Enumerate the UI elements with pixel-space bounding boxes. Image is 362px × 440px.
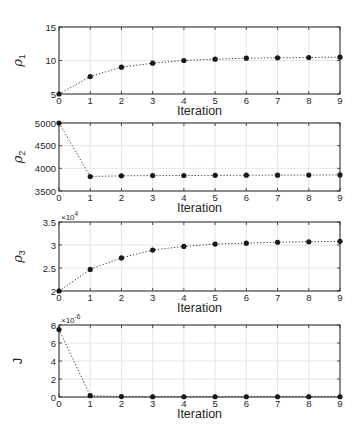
subplot-2: 01234567893500400045005000Iterationρ2 <box>10 118 343 216</box>
x-tick-label: 7 <box>275 192 280 203</box>
x-tick-label: 2 <box>119 292 124 303</box>
data-point <box>119 65 124 70</box>
x-tick-label: 8 <box>306 192 311 203</box>
data-point <box>213 241 218 246</box>
plot-area <box>59 222 340 291</box>
data-point <box>337 239 342 244</box>
x-tick-label: 9 <box>337 95 342 106</box>
data-point <box>244 56 249 61</box>
data-point <box>56 120 61 125</box>
data-point <box>337 55 342 60</box>
y-tick-label: 3500 <box>35 186 56 197</box>
y-tick-label: 8 <box>51 320 56 331</box>
y-axis-label: ρ2 <box>10 151 27 165</box>
y-tick-label: 2 <box>51 286 56 297</box>
y-tick-label: 4 <box>51 356 56 367</box>
x-tick-label: 9 <box>337 192 342 203</box>
x-tick-label: 1 <box>88 95 93 106</box>
x-tick-label: 2 <box>119 192 124 203</box>
x-tick-label: 0 <box>56 192 61 203</box>
x-tick-label: 1 <box>88 292 93 303</box>
subplot-4: 012345678902468×10-6IterationJ <box>10 313 343 421</box>
x-tick-label: 3 <box>150 192 155 203</box>
y-tick-label: 0 <box>51 392 56 403</box>
y-tick-label: 6 <box>51 338 56 349</box>
data-point <box>275 240 280 245</box>
y-axis-label: ρ3 <box>10 250 27 264</box>
data-point <box>244 241 249 246</box>
x-tick-label: 1 <box>88 398 93 409</box>
x-tick-label: 7 <box>275 292 280 303</box>
subplot-1: 012345678951015Iterationρ1 <box>10 22 343 119</box>
x-tick-label: 3 <box>150 95 155 106</box>
x-tick-label: 0 <box>56 398 61 409</box>
data-point <box>181 244 186 249</box>
y-axis-label: ρ1 <box>10 54 27 68</box>
data-point <box>88 74 93 79</box>
x-axis-label: Iteration <box>177 407 222 421</box>
x-tick-label: 2 <box>119 398 124 409</box>
data-point <box>213 57 218 62</box>
x-tick-label: 8 <box>306 292 311 303</box>
data-point <box>306 172 311 177</box>
y-tick-label: 4500 <box>35 140 56 151</box>
data-point <box>306 239 311 244</box>
x-axis-label: Iteration <box>177 301 222 315</box>
data-point <box>150 247 155 252</box>
x-tick-label: 6 <box>244 95 249 106</box>
y-tick-label: 2.5 <box>43 263 56 274</box>
y-tick-label: 4000 <box>35 163 56 174</box>
exponent-label: ×10-6 <box>61 313 81 325</box>
data-point <box>56 327 61 332</box>
figure: 012345678951015Iterationρ101234567893500… <box>0 0 362 440</box>
data-point <box>181 173 186 178</box>
y-tick-label: 5 <box>51 89 56 100</box>
data-point <box>119 255 124 260</box>
x-tick-label: 6 <box>244 192 249 203</box>
x-axis-label: Iteration <box>177 201 222 215</box>
exponent-label: ×104 <box>61 210 79 222</box>
y-tick-label: 3 <box>51 240 56 251</box>
x-tick-label: 8 <box>306 95 311 106</box>
x-tick-label: 1 <box>88 192 93 203</box>
plot-area <box>59 123 340 191</box>
x-tick-label: 9 <box>337 292 342 303</box>
x-tick-label: 6 <box>244 292 249 303</box>
data-point <box>150 61 155 66</box>
data-point <box>275 55 280 60</box>
data-point <box>275 173 280 178</box>
x-tick-label: 0 <box>56 292 61 303</box>
y-tick-label: 3.5 <box>43 217 56 228</box>
x-tick-label: 2 <box>119 95 124 106</box>
y-tick-label: 2 <box>51 374 56 385</box>
data-point <box>150 173 155 178</box>
data-point <box>119 173 124 178</box>
y-tick-label: 10 <box>45 55 56 66</box>
data-point <box>337 172 342 177</box>
x-tick-label: 8 <box>306 398 311 409</box>
x-tick-label: 7 <box>275 398 280 409</box>
x-tick-label: 7 <box>275 95 280 106</box>
subplot-3: 012345678922.533.5×104Iterationρ3 <box>10 210 343 315</box>
data-point <box>306 55 311 60</box>
x-tick-label: 9 <box>337 398 342 409</box>
x-tick-label: 3 <box>150 292 155 303</box>
data-point <box>88 267 93 272</box>
x-tick-label: 0 <box>56 95 61 106</box>
data-point <box>181 58 186 63</box>
data-point <box>88 174 93 179</box>
y-tick-label: 5000 <box>35 118 56 129</box>
x-tick-label: 6 <box>244 398 249 409</box>
data-point <box>244 173 249 178</box>
x-tick-label: 3 <box>150 398 155 409</box>
y-axis-label: J <box>10 358 25 365</box>
x-axis-label: Iteration <box>177 104 222 118</box>
data-point <box>213 173 218 178</box>
y-tick-label: 15 <box>45 22 56 33</box>
